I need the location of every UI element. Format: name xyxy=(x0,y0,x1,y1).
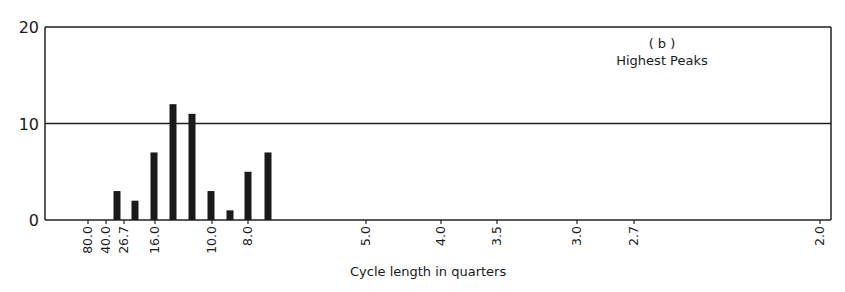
x-tick-label: 16.0 xyxy=(147,226,162,254)
bar xyxy=(208,191,215,220)
bar xyxy=(265,152,272,220)
y-tick-label: 0 xyxy=(29,211,39,230)
bar xyxy=(170,104,177,220)
bar xyxy=(189,114,196,220)
x-axis-label: Cycle length in quarters xyxy=(350,264,506,279)
x-tick-label: 80.0 xyxy=(80,226,95,254)
x-tick-label: 26.7 xyxy=(116,226,131,254)
x-tick-label: 3.0 xyxy=(569,226,584,246)
bar xyxy=(114,191,121,220)
x-tick-label: 2.7 xyxy=(626,226,641,246)
x-tick-label: 40.0 xyxy=(98,226,113,254)
y-tick-label: 20 xyxy=(19,18,39,37)
x-tick-label: 5.0 xyxy=(358,226,373,246)
panel-label: ( b ) xyxy=(649,36,676,51)
panel-subtitle: Highest Peaks xyxy=(616,53,708,68)
y-tick-label: 10 xyxy=(19,115,39,134)
bar xyxy=(245,172,252,220)
bar xyxy=(132,201,139,220)
x-tick-label: 2.0 xyxy=(812,226,827,246)
x-tick-label: 4.0 xyxy=(433,226,448,246)
bar-chart: 01020 80.040.026.716.010.08.05.04.03.53.… xyxy=(0,0,845,292)
x-tick-label: 8.0 xyxy=(240,226,255,246)
x-tick-label: 3.5 xyxy=(489,226,504,246)
bars xyxy=(114,104,272,220)
bar xyxy=(151,152,158,220)
x-tick-label: 10.0 xyxy=(204,226,219,254)
plot-frame xyxy=(45,27,831,220)
x-axis-ticks: 80.040.026.716.010.08.05.04.03.53.02.72.… xyxy=(80,220,827,254)
y-axis-ticks: 01020 xyxy=(19,18,39,230)
bar xyxy=(227,210,234,220)
